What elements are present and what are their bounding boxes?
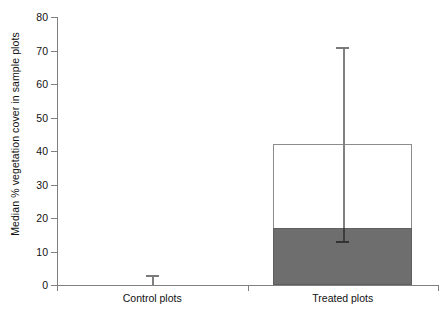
y-tick-mark (51, 218, 57, 219)
y-tick-label-wrap: 50 (0, 113, 48, 124)
y-tick-mark (51, 17, 57, 18)
y-tick-label-wrap: 30 (0, 180, 48, 191)
error-bar-stem (343, 47, 345, 241)
y-tick-label: 50 (4, 113, 48, 124)
y-tick-label: 20 (4, 213, 48, 224)
y-tick-label-wrap: 80 (0, 12, 48, 23)
error-bar-cap-lower (336, 241, 349, 243)
y-tick-mark (51, 185, 57, 186)
y-tick-mark (51, 252, 57, 253)
y-tick-label-wrap: 40 (0, 146, 48, 157)
x-tick-mark (438, 285, 439, 291)
y-tick-label: 30 (4, 180, 48, 191)
y-tick-label: 70 (4, 46, 48, 57)
y-tick-label: 0 (4, 280, 48, 291)
y-tick-label: 10 (4, 247, 48, 258)
x-tick-mark (57, 285, 58, 291)
y-tick-label-wrap: 0 (0, 280, 48, 291)
x-tick-label: Control plots (57, 292, 248, 304)
y-tick-label-wrap: 20 (0, 213, 48, 224)
y-tick-mark (51, 118, 57, 119)
error-bar-cap-upper (146, 275, 159, 277)
y-tick-label-wrap: 10 (0, 247, 48, 258)
x-tick-mark (248, 285, 249, 291)
y-tick-label-wrap: 70 (0, 46, 48, 57)
y-tick-label: 40 (4, 146, 48, 157)
chart-canvas: Median % vegetation cover in sample plot… (0, 0, 448, 312)
y-tick-mark (51, 151, 57, 152)
x-tick-label: Treated plots (248, 292, 439, 304)
error-bar-stem-inner (343, 228, 345, 241)
y-tick-label-wrap: 60 (0, 79, 48, 90)
y-tick-mark (51, 51, 57, 52)
y-tick-label: 80 (4, 12, 48, 23)
error-bar-stem (152, 275, 154, 285)
y-axis-line (57, 17, 58, 286)
y-tick-mark (51, 84, 57, 85)
error-bar-cap-upper (336, 47, 349, 49)
y-tick-label: 60 (4, 79, 48, 90)
